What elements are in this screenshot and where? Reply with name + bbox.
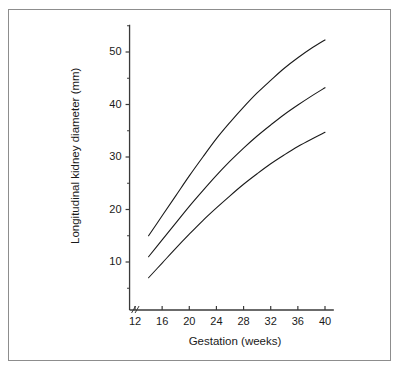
y-tick-label: 40 xyxy=(92,99,122,110)
series-line-2 xyxy=(149,88,325,257)
series-line-1 xyxy=(149,40,325,236)
chart-plot-area xyxy=(0,0,400,370)
y-tick-label: 30 xyxy=(92,151,122,162)
figure-container: 1020304050 1216202428323640 Gestation (w… xyxy=(0,0,400,370)
x-tick-label: 24 xyxy=(201,316,231,327)
x-tick-label: 36 xyxy=(283,316,313,327)
x-tick-label: 16 xyxy=(147,316,177,327)
y-tick-label: 10 xyxy=(92,256,122,267)
x-axis-title: Gestation (weeks) xyxy=(135,336,335,348)
x-tick-label: 32 xyxy=(256,316,286,327)
tick-marks-group xyxy=(126,26,325,310)
x-tick-label: 20 xyxy=(174,316,204,327)
x-tick-label: 12 xyxy=(120,316,150,327)
axes-group xyxy=(130,25,334,310)
x-tick-label: 28 xyxy=(229,316,259,327)
y-tick-label: 20 xyxy=(92,204,122,215)
data-series-group xyxy=(149,40,325,278)
y-tick-label: 50 xyxy=(92,46,122,57)
x-tick-label: 40 xyxy=(310,316,340,327)
y-axis-title: Longitudinal kidney diameter (mm) xyxy=(70,56,82,256)
